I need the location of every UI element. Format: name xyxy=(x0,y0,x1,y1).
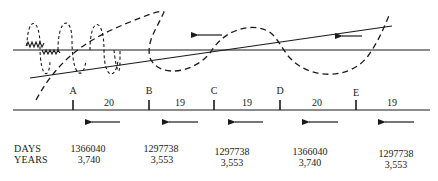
days-value: 1366040 xyxy=(293,146,328,157)
segment-value: 19 xyxy=(175,98,185,108)
zigzag-left xyxy=(26,42,44,47)
years-value: 3,740 xyxy=(78,154,101,165)
segment-value: 20 xyxy=(104,98,114,108)
marker-label-d: D xyxy=(276,86,283,96)
marker-label-c: C xyxy=(211,86,218,96)
years-value: 3,740 xyxy=(299,157,322,168)
marker-label-e: E xyxy=(353,88,359,98)
years-value: 3,553 xyxy=(151,154,174,165)
marker-label-b: B xyxy=(146,86,153,96)
segment-value: 19 xyxy=(387,98,397,108)
segment-value: 20 xyxy=(312,98,322,108)
marker-label-a: A xyxy=(69,86,76,96)
days-value: 1297738 xyxy=(144,143,179,154)
days-row-label: DAYS xyxy=(14,143,41,154)
days-value: 1297738 xyxy=(379,148,414,159)
years-row-label: YEARS xyxy=(14,154,48,165)
segment-value: 19 xyxy=(242,98,252,108)
years-value: 3,553 xyxy=(385,159,408,170)
years-value: 3,553 xyxy=(221,157,244,168)
days-value: 1366040 xyxy=(71,143,106,154)
dashed-oscillations xyxy=(27,23,120,74)
days-value: 1297738 xyxy=(215,146,250,157)
